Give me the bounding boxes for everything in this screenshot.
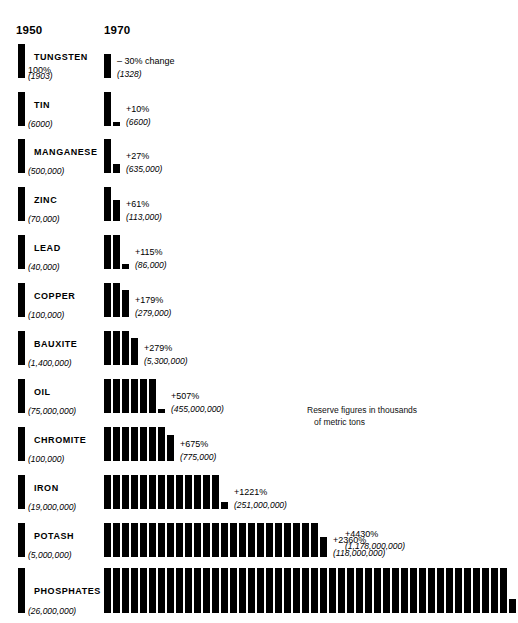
bars-1970 [104,475,230,509]
chart-row: LEAD(40,000)+115%(86,000) [0,231,451,277]
unit-bar [311,568,318,613]
unit-bar [131,427,138,461]
unit-bar [221,523,228,557]
unit-bar [374,568,381,613]
percent-change-1970: +1221% [234,487,267,497]
unit-bar [212,523,219,557]
unit-bar [185,523,192,557]
unit-bar [185,568,192,613]
mineral-name: BAUXITE [34,339,77,349]
unit-bar [113,427,120,461]
unit-bar [221,568,228,613]
unit-bar [473,568,480,613]
unit-bar [383,568,390,613]
mineral-name: IRON [34,483,59,493]
unit-bar [194,523,201,557]
unit-bar [131,475,138,509]
unit-bar [212,475,219,509]
unit-bar-partial [122,290,129,317]
unit-bar [113,379,120,413]
unit-bar [131,523,138,557]
unit-bar-partial [158,409,165,413]
unit-bar [293,568,300,613]
unit-bar-partial [113,164,120,173]
phosphates-extra-reserve: (1,178,000,000) [345,541,405,551]
bars-1970 [104,568,518,613]
unit-bar [338,568,345,613]
unit-bar [293,523,300,557]
bar-1950 [18,568,25,613]
unit-bar [500,568,507,613]
bars-1970 [104,187,122,221]
unit-bar [248,568,255,613]
unit-bar [149,523,156,557]
unit-bar [230,523,237,557]
reserve-1950: (5,000,000) [28,550,71,560]
unit-bar [203,523,210,557]
unit-bar [302,523,309,557]
bars-1970 [104,523,329,557]
unit-bar [455,568,462,613]
unit-bar [410,568,417,613]
footnote-line-2: of metric tons [307,416,447,428]
unit-bar [122,568,129,613]
unit-bar [428,568,435,613]
unit-bar [284,523,291,557]
unit-bar [176,475,183,509]
unit-bar [392,568,399,613]
percent-change-1970: – 30% change [117,56,175,66]
unit-bar [203,475,210,509]
unit-bar [311,523,318,557]
unit-bar [194,475,201,509]
unit-bar [257,568,264,613]
column-header-1950: 1950 [16,24,42,36]
mineral-name: TIN [34,100,50,110]
bars-1970 [104,235,131,269]
bars-1970 [104,283,131,317]
phosphates-extra-percent: +4430% [345,529,378,539]
unit-bar-partial [131,338,138,365]
unit-bar [320,568,327,613]
unit-bar [203,568,210,613]
unit-bar [104,92,111,126]
unit-bar [212,568,219,613]
unit-bar [104,379,111,413]
reserve-1950: (19,000,000) [28,502,76,512]
unit-bar [104,523,111,557]
reserve-1970: (6600) [126,117,151,127]
unit-bar [239,568,246,613]
group-1950: IRON(19,000,000) [0,471,100,517]
bar-1950 [18,92,25,126]
unit-bar [113,568,120,613]
reserve-1970: (279,000) [135,308,171,318]
column-header-1970: 1970 [104,24,130,36]
mineral-name: LEAD [34,243,61,253]
percent-change-1970: +279% [144,343,172,353]
chart-row: IRON(19,000,000)+1221%(251,000,000) [0,471,451,517]
unit-bar [167,523,174,557]
chart-row: CHROMITE(100,000)+675%(775,000) [0,423,451,469]
unit-bar [104,235,111,269]
chart-row: BAUXITE(1,400,000)+279%(5,300,000) [0,327,451,373]
unit-bar [266,523,273,557]
mineral-name: COPPER [34,291,75,301]
bar-1950 [18,235,25,269]
group-1950: BAUXITE(1,400,000) [0,327,100,373]
unit-bar-partial [509,599,516,613]
unit-bar [248,523,255,557]
unit-bar [266,568,273,613]
unit-bar [104,187,111,221]
bars-1970 [104,44,113,78]
group-1950: CHROMITE(100,000) [0,423,100,469]
unit-bar [239,523,246,557]
unit-bar [104,331,111,365]
mineral-name: ZINC [34,195,57,205]
unit-bar [419,568,426,613]
mineral-name: PHOSPHATES [34,586,101,596]
unit-bar [140,523,147,557]
unit-bar [158,568,165,613]
reserve-1970: (1328) [117,69,142,79]
unit-bar [491,568,498,613]
unit-bar [185,475,192,509]
unit-bar-partial [221,502,228,509]
